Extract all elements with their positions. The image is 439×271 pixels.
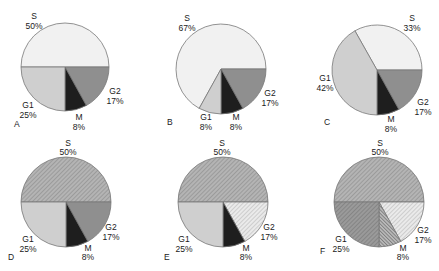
label-s-pct: 50% [371, 147, 388, 157]
label-g2-pct: 17% [261, 98, 278, 108]
figure-caption-clipped [4, 264, 435, 271]
label-m-pct: 8% [385, 124, 398, 134]
panel-letter-f: F [320, 246, 325, 256]
label-g2-name: G2 [105, 222, 117, 232]
label-g1-name: G1 [319, 73, 331, 83]
label-g1-name: G1 [335, 234, 347, 244]
label-g2-pct: 17% [414, 235, 431, 245]
pie-panel-c: S 33% G2 17% M 8% G1 42% C [316, 13, 431, 134]
label-m-pct: 8% [82, 252, 95, 262]
pie-panel-f: S 50% G2 17% M 8% G1 25% F [320, 138, 432, 262]
label-s-name: S [184, 13, 190, 23]
label-g1-name: G1 [200, 112, 212, 122]
label-g1-pct: 25% [332, 244, 349, 254]
label-m-name: M [75, 112, 82, 122]
label-g2-name: G2 [109, 86, 121, 96]
pie-chart-figure: S 50% G2 17% M 8% G1 25% A S 67% G2 17% … [0, 0, 439, 271]
slice-s [178, 157, 268, 202]
label-g2-name: G2 [417, 225, 429, 235]
panel-letter-b: B [167, 117, 173, 127]
label-s-name: S [31, 11, 37, 21]
panel-letter-d: D [8, 252, 14, 262]
label-g1-pct: 25% [175, 244, 192, 254]
label-s-pct: 50% [25, 21, 42, 31]
slice-s [21, 157, 111, 202]
pie-panel-e: S 50% G2 17% M 8% G1 25% E [164, 138, 278, 262]
label-m-name: M [232, 112, 239, 122]
label-m-pct: 8% [397, 252, 410, 262]
label-g2-pct: 17% [102, 232, 119, 242]
slice-s [334, 157, 424, 202]
pie-panel-d: S 50% G2 17% M 8% G1 25% D [8, 138, 120, 262]
label-s-pct: 33% [403, 23, 420, 33]
label-s-name: S [409, 13, 415, 23]
label-s-pct: 50% [59, 147, 76, 157]
label-g1-pct: 25% [19, 110, 36, 120]
panel-letter-a: A [14, 119, 20, 129]
label-m-pct: 8% [230, 122, 243, 132]
label-g2-pct: 17% [260, 232, 277, 242]
label-m-pct: 8% [73, 122, 86, 132]
label-m-pct: 8% [240, 252, 253, 262]
label-g1-pct: 42% [316, 83, 333, 93]
label-g1-pct: 25% [19, 244, 36, 254]
pie-panel-a: S 50% G2 17% M 8% G1 25% A [14, 11, 124, 132]
label-g1-name: G1 [22, 234, 34, 244]
label-s-pct: 50% [213, 147, 230, 157]
label-g1-name: G1 [22, 100, 34, 110]
label-m-name: M [387, 114, 394, 124]
label-g1-name: G1 [178, 234, 190, 244]
label-g2-name: G2 [263, 222, 275, 232]
label-s-pct: 67% [178, 23, 195, 33]
label-g2-name: G2 [417, 97, 429, 107]
label-g2-name: G2 [264, 88, 276, 98]
panel-letter-e: E [164, 252, 170, 262]
label-g2-pct: 17% [106, 96, 123, 106]
panel-letter-c: C [324, 117, 330, 127]
label-g2-pct: 17% [414, 107, 431, 117]
label-g1-pct: 8% [200, 122, 213, 132]
pie-panel-b: S 67% G2 17% M 8% G1 8% B [167, 13, 279, 132]
